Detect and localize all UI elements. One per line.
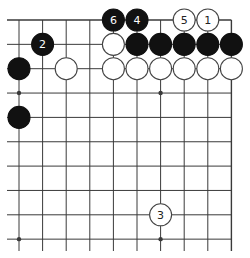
star-point (17, 91, 21, 95)
white-stone (102, 33, 124, 55)
move-number: 1 (204, 14, 211, 27)
move-number: 6 (110, 14, 117, 27)
white-stone-1: 1 (197, 9, 219, 31)
go-board: 645123 (0, 0, 250, 258)
move-number: 3 (157, 209, 164, 222)
black-stone-6: 6 (102, 9, 124, 31)
star-point (17, 237, 21, 241)
black-stone (173, 33, 195, 55)
black-stone (220, 33, 242, 55)
white-stone-5: 5 (173, 9, 195, 31)
black-stone (8, 58, 30, 80)
move-number: 4 (134, 14, 141, 27)
white-stone (220, 58, 242, 80)
star-point (158, 237, 162, 241)
black-stone (126, 33, 148, 55)
white-stone-3: 3 (150, 204, 172, 226)
white-stone (126, 58, 148, 80)
black-stone (150, 33, 172, 55)
star-point (158, 91, 162, 95)
black-stone (197, 33, 219, 55)
white-stone (102, 58, 124, 80)
white-stone (197, 58, 219, 80)
black-stone-2: 2 (32, 33, 54, 55)
white-stone (150, 58, 172, 80)
move-number: 5 (181, 14, 188, 27)
white-stone (173, 58, 195, 80)
white-stone (55, 58, 77, 80)
black-stone-4: 4 (126, 9, 148, 31)
move-number: 2 (39, 38, 46, 51)
black-stone (8, 106, 30, 128)
